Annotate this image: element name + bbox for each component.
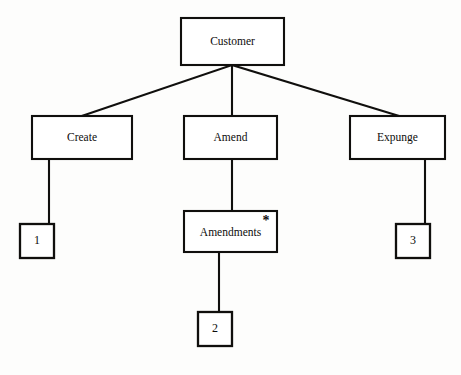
node-label-customer: Customer <box>210 35 255 47</box>
node-label-create: Create <box>67 131 97 143</box>
node-expunge[interactable]: Expunge <box>350 116 445 159</box>
edges-layer <box>49 65 425 312</box>
node-leaf-1[interactable]: 1 <box>20 224 54 258</box>
node-label-leaf-1: 1 <box>34 233 40 247</box>
node-amendments[interactable]: Amendments* <box>184 211 277 252</box>
diagram-canvas-container: CustomerCreateAmendExpungeAmendments*123 <box>0 0 461 375</box>
node-create[interactable]: Create <box>32 116 132 159</box>
edge-customer-create <box>82 65 232 116</box>
decomposition-diagram: CustomerCreateAmendExpungeAmendments*123 <box>0 0 461 375</box>
node-label-leaf-3: 3 <box>410 233 416 247</box>
node-leaf-2[interactable]: 2 <box>198 312 232 346</box>
edge-customer-expunge <box>232 65 399 116</box>
node-amend[interactable]: Amend <box>184 116 277 159</box>
node-label-leaf-2: 2 <box>212 321 218 335</box>
node-leaf-3[interactable]: 3 <box>396 224 430 258</box>
multiplicity-marker-amendments: * <box>263 213 270 228</box>
node-customer[interactable]: Customer <box>181 18 284 65</box>
node-label-expunge: Expunge <box>377 131 418 144</box>
node-label-amendments: Amendments <box>200 226 262 238</box>
node-label-amend: Amend <box>214 131 248 143</box>
